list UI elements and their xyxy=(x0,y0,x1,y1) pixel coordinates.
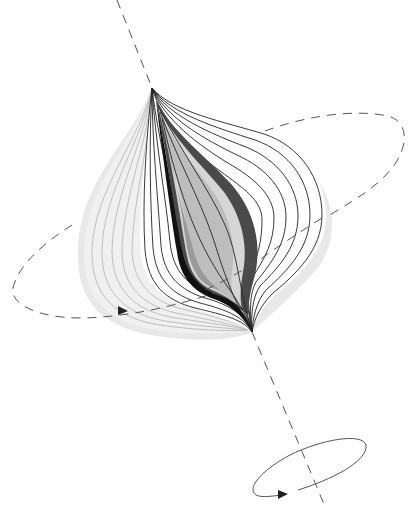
rotation-arrow-icon xyxy=(278,490,288,499)
rotation-axis-lower xyxy=(252,332,326,509)
onion-streamline-diagram xyxy=(0,0,413,509)
diagram-stage xyxy=(0,0,413,509)
rotation-axis-upper xyxy=(117,0,152,88)
rotation-indicator-ellipse xyxy=(253,438,366,496)
